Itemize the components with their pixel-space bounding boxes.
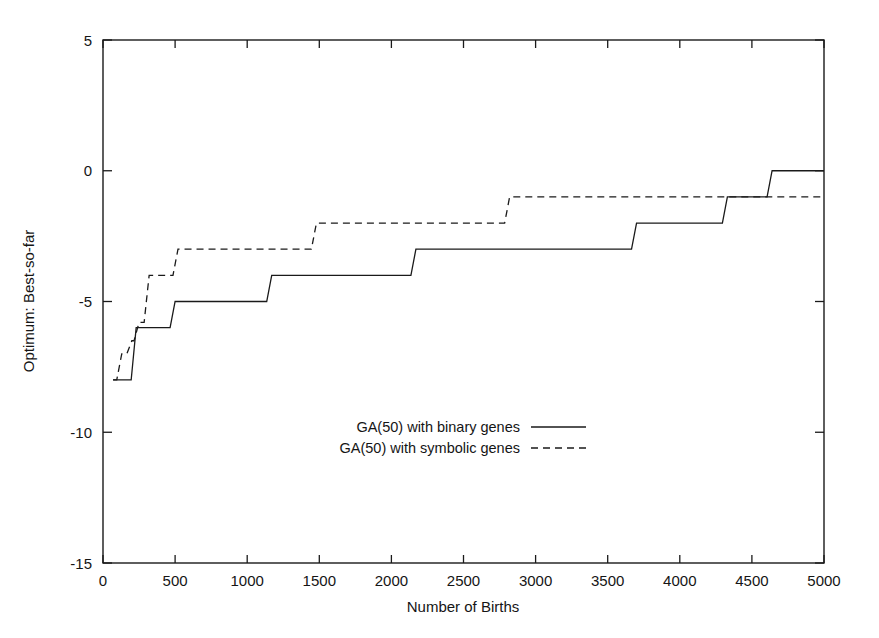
y-tick-label: -15 bbox=[70, 555, 92, 572]
x-tick-label: 2500 bbox=[447, 572, 480, 589]
chart-background bbox=[0, 0, 879, 638]
y-axis-title: Optimum: Best-so-far bbox=[20, 230, 37, 373]
chart-figure: 0500100015002000250030003500400045005000… bbox=[0, 0, 879, 638]
y-tick-label: 0 bbox=[84, 162, 92, 179]
y-tick-label: -5 bbox=[79, 293, 92, 310]
x-tick-label: 1500 bbox=[303, 572, 336, 589]
legend-label-symbolic: GA(50) with symbolic genes bbox=[339, 440, 520, 456]
x-tick-label: 3500 bbox=[591, 572, 624, 589]
best-so-far-line-chart: 0500100015002000250030003500400045005000… bbox=[0, 0, 879, 638]
y-tick-label: -10 bbox=[70, 424, 92, 441]
x-tick-label: 1000 bbox=[231, 572, 264, 589]
x-tick-label: 500 bbox=[163, 572, 188, 589]
x-tick-label: 4000 bbox=[663, 572, 696, 589]
legend-label-binary: GA(50) with binary genes bbox=[356, 419, 520, 435]
x-tick-label: 2000 bbox=[375, 572, 408, 589]
x-tick-label: 4500 bbox=[735, 572, 768, 589]
y-tick-label: 5 bbox=[84, 32, 92, 49]
x-axis-title: Number of Births bbox=[407, 598, 520, 615]
x-tick-label: 0 bbox=[99, 572, 107, 589]
x-tick-label: 5000 bbox=[807, 572, 840, 589]
x-tick-label: 3000 bbox=[519, 572, 552, 589]
